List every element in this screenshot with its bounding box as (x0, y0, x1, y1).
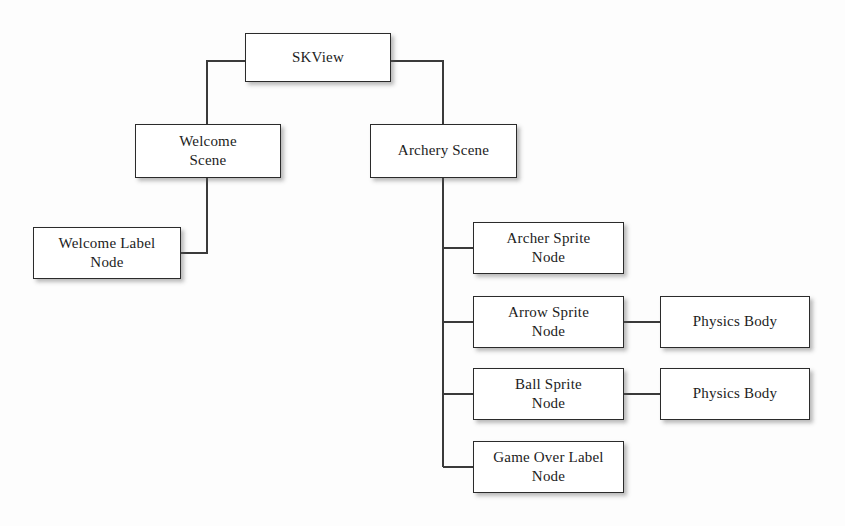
node-ball-sprite-node[interactable]: Ball Sprite Node (473, 368, 624, 420)
edge-skview-archery-scene (391, 61, 443, 124)
diagram-canvas: SKView Welcome Scene Welcome Label Node … (0, 0, 845, 526)
node-archery-scene-label: Archery Scene (398, 141, 489, 160)
node-welcome-label-node[interactable]: Welcome Label Node (33, 227, 181, 279)
edge-skview-welcome-scene (207, 61, 245, 124)
node-arrow-sprite-node-label: Arrow Sprite Node (508, 303, 589, 341)
node-game-over-label-node[interactable]: Game Over Label Node (473, 441, 624, 493)
node-welcome-label-node-label: Welcome Label Node (59, 234, 156, 272)
node-physics-body-arrow-label: Physics Body (693, 312, 778, 331)
edge-welcome-scene-welcome-label (181, 178, 207, 253)
node-skview[interactable]: SKView (245, 33, 391, 82)
node-welcome-scene[interactable]: Welcome Scene (135, 124, 281, 178)
node-archery-scene[interactable]: Archery Scene (370, 124, 517, 178)
node-physics-body-arrow[interactable]: Physics Body (660, 296, 810, 348)
node-physics-body-ball[interactable]: Physics Body (660, 368, 810, 420)
node-arrow-sprite-node[interactable]: Arrow Sprite Node (473, 296, 624, 348)
node-archer-sprite-node[interactable]: Archer Sprite Node (473, 222, 624, 274)
node-archer-sprite-node-label: Archer Sprite Node (507, 229, 591, 267)
node-ball-sprite-node-label: Ball Sprite Node (515, 375, 582, 413)
node-welcome-scene-label: Welcome Scene (179, 132, 237, 170)
node-skview-label: SKView (292, 48, 344, 67)
node-game-over-label-node-label: Game Over Label Node (493, 448, 603, 486)
node-physics-body-ball-label: Physics Body (693, 384, 778, 403)
